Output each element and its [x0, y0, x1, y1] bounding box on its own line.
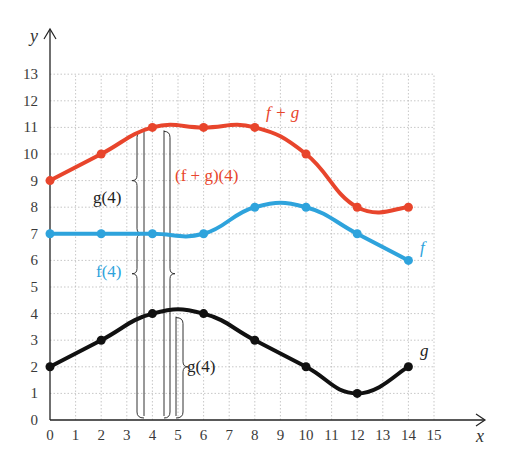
series-f-point	[148, 229, 157, 238]
labels: f + gfg(f + g)(4)g(4)f(4)g(4)	[93, 103, 429, 376]
y-tick-label: 3	[31, 332, 39, 348]
series-fg-point	[353, 203, 362, 212]
label-f: f	[420, 238, 427, 257]
series-fg-point	[46, 176, 55, 185]
series-fg-point	[250, 123, 259, 132]
y-tick-label: 12	[23, 93, 38, 109]
x-tick-label: 15	[427, 427, 442, 443]
series-f-point	[302, 203, 311, 212]
series-f-point	[250, 203, 259, 212]
x-tick-label: 11	[324, 427, 338, 443]
x-tick-label: 12	[350, 427, 365, 443]
y-tick-label: 2	[31, 359, 39, 375]
x-tick-label: 4	[149, 427, 157, 443]
y-tick-label: 6	[31, 252, 39, 268]
brace-fg4	[164, 131, 175, 418]
y-tick-label: 8	[31, 199, 39, 215]
y-tick-label: 4	[31, 306, 39, 322]
y-tick-label: 5	[31, 279, 39, 295]
x-tick-label: 6	[200, 427, 208, 443]
y-tick-label: 13	[23, 66, 38, 82]
series-g-point	[353, 389, 362, 398]
series-fg-point	[302, 150, 311, 159]
brace-f4	[132, 234, 144, 418]
x-tick-label: 1	[72, 427, 80, 443]
series-fg-point	[97, 150, 106, 159]
series-fg-point	[199, 123, 208, 132]
series-f-point	[199, 229, 208, 238]
x-tick-label: 8	[251, 427, 259, 443]
x-tick-label: 14	[401, 427, 417, 443]
label-fg-of-4: (f + g)(4)	[175, 166, 238, 185]
series-g-point	[46, 362, 55, 371]
y-tick-label: 7	[31, 226, 39, 242]
series-g-point	[302, 362, 311, 371]
y-tick-label: 9	[31, 173, 39, 189]
label-f-of-4: f(4)	[96, 262, 121, 281]
series-g-point	[199, 309, 208, 318]
x-tick-label: 0	[46, 427, 54, 443]
y-tick-label: 11	[24, 119, 38, 135]
series-fg-point	[148, 123, 157, 132]
y-tick-label: 1	[31, 385, 39, 401]
label-f-plus-g: f + g	[266, 103, 299, 122]
label-g-of-4-lower: g(4)	[187, 357, 215, 376]
series-f-point	[46, 229, 55, 238]
label-g: g	[420, 341, 429, 360]
x-axis-label: x	[475, 426, 484, 446]
function-sum-chart: 0123456789101112131415012345678910111213…	[0, 0, 519, 466]
label-g-of-4-upper: g(4)	[93, 188, 121, 207]
series-g-point	[404, 362, 413, 371]
x-tick-label: 7	[225, 427, 233, 443]
series-g-point	[97, 336, 106, 345]
series-f-point	[404, 256, 413, 265]
x-tick-label: 9	[277, 427, 285, 443]
x-tick-label: 3	[123, 427, 131, 443]
series-f-point	[353, 229, 362, 238]
axes: 0123456789101112131415012345678910111213…	[23, 26, 485, 446]
x-tick-label: 5	[174, 427, 182, 443]
y-tick-label: 10	[23, 146, 38, 162]
y-tick-label: 0	[31, 412, 39, 428]
y-axis-label: y	[28, 26, 38, 46]
series-f-point	[97, 229, 106, 238]
brace-g4-upper	[132, 131, 144, 233]
series-fg-point	[404, 203, 413, 212]
x-tick-label: 13	[375, 427, 390, 443]
series-g-point	[250, 336, 259, 345]
x-tick-label: 2	[97, 427, 105, 443]
series-g-point	[148, 309, 157, 318]
x-tick-label: 10	[299, 427, 314, 443]
